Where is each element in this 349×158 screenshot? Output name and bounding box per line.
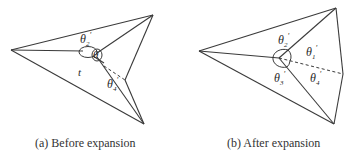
label-theta4: θ4' <box>310 70 321 87</box>
label-theta2: θ2' <box>80 31 91 48</box>
caption-before-expansion: (a) Before expansion <box>35 136 136 151</box>
diagram-canvas: θ2' θ' t θ4' θ2' θ1' θ3' θ4' <box>0 0 349 158</box>
caption-after-expansion: (b) After expansion <box>227 136 320 151</box>
edge-concave-bottom <box>125 80 144 124</box>
figure-a: θ2' θ' t θ4' <box>11 15 153 124</box>
label-theta4: θ4' <box>107 76 118 93</box>
label-theta1: θ' <box>93 48 100 60</box>
label-t: t <box>78 66 82 78</box>
label-theta2: θ2' <box>278 32 289 49</box>
angle-arc-theta4 <box>287 61 290 67</box>
edge-center-bottom <box>279 58 334 124</box>
angle-arc-theta1 <box>288 50 291 61</box>
edge-bottom-left <box>199 51 334 124</box>
figure-b: θ2' θ1' θ3' θ4' <box>199 8 343 124</box>
label-theta3: θ3' <box>274 70 285 87</box>
edge-center-bottom <box>97 57 144 124</box>
edge-bottom-left <box>11 50 144 124</box>
edge-top-right <box>336 8 343 74</box>
edge-right-bottom <box>334 74 343 124</box>
label-theta1: θ1' <box>306 44 317 61</box>
edge-left-center <box>11 50 83 51</box>
